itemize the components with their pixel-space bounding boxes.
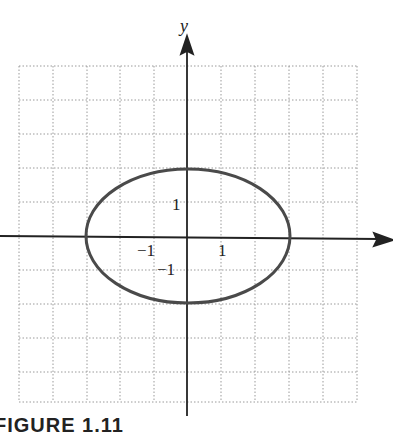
tick-x-pos: 1 [218, 241, 227, 260]
axes [0, 36, 393, 416]
figure-caption: FIGURE 1.11 [0, 414, 124, 432]
ellipse-curve [86, 169, 290, 303]
tick-y-neg: −1 [157, 260, 175, 279]
x-axis-arrow-icon [374, 233, 393, 246]
ellipse-figure: y 1 −1 1 −1 [0, 0, 393, 432]
tick-x-neg: −1 [137, 241, 155, 260]
y-axis-arrow-icon [181, 36, 193, 54]
tick-y-pos: 1 [172, 195, 181, 214]
grid [19, 66, 357, 402]
y-axis-label: y [178, 16, 188, 36]
